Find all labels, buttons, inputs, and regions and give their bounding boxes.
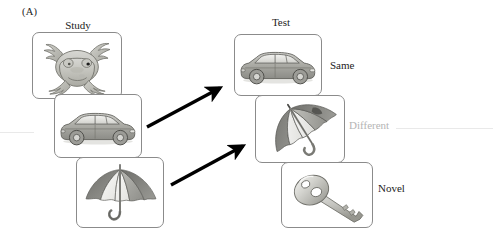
arrow-study-umbrella-to-test-umbrella — [171, 146, 243, 185]
umbrella-icon — [77, 158, 163, 227]
card-test-key[interactable] — [281, 162, 373, 228]
umbrella-rotated-icon — [256, 96, 344, 162]
column-header-test: Test — [241, 16, 321, 28]
scan-artifact-line-left — [0, 132, 34, 133]
column-header-study: Study — [38, 19, 118, 31]
card-test-car[interactable] — [234, 34, 322, 96]
panel-label: (A) — [22, 6, 37, 17]
scan-artifact-line-right — [396, 128, 493, 129]
car-icon — [55, 95, 141, 157]
car-icon — [235, 35, 321, 95]
card-test-umbrella[interactable] — [255, 95, 345, 163]
arrow-study-car-to-test-car — [147, 88, 220, 127]
condition-label-same: Same — [330, 59, 354, 71]
card-study-car[interactable] — [54, 94, 142, 158]
card-study-frog[interactable] — [32, 32, 122, 99]
key-icon — [282, 163, 372, 227]
condition-label-different: Different — [349, 119, 389, 131]
frog-icon — [33, 33, 121, 98]
card-study-umbrella[interactable] — [76, 157, 164, 228]
condition-label-novel: Novel — [378, 182, 405, 194]
figure-panel-a: (A) Study Test — [0, 0, 493, 242]
